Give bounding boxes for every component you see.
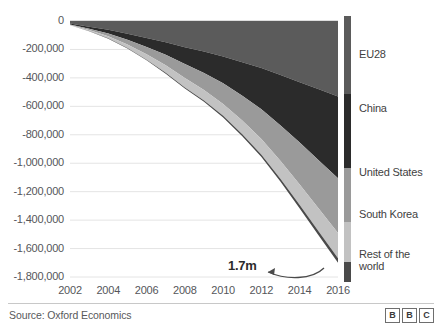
legend-color-swatch — [344, 222, 351, 262]
legend-color-swatch — [344, 94, 351, 168]
annotation-arrow — [268, 268, 324, 278]
legend-item-label: Rest of the world — [359, 248, 410, 272]
bbc-logo: B B C — [385, 308, 434, 323]
annotation-1-7m: 1.7m — [228, 258, 256, 273]
legend-item-label: China — [359, 102, 387, 114]
x-axis-tick-label: 2010 — [203, 284, 243, 296]
y-axis-tick-label: -600,000 — [0, 99, 64, 111]
y-axis-tick-label: 0 — [0, 14, 64, 26]
x-axis-tick-label: 2012 — [241, 284, 281, 296]
y-axis-tick-label: -1,200,000 — [0, 185, 64, 197]
legend-color-swatch — [344, 168, 351, 222]
legend: EU28ChinaUnited StatesSouth KoreaRest of… — [344, 16, 442, 282]
y-axis-tick-label: -1,600,000 — [0, 242, 64, 254]
source-note: Source: Oxford Economics — [9, 309, 131, 321]
bbc-logo-letter: C — [419, 308, 434, 323]
legend-color-swatch — [344, 262, 351, 282]
legend-item-label: United States — [359, 166, 422, 178]
x-axis-tick-label: 2008 — [165, 284, 205, 296]
legend-color-swatch — [344, 16, 351, 94]
legend-color-bar — [344, 16, 351, 282]
x-axis-tick-label: 2016 — [318, 284, 358, 296]
area-series-group — [70, 21, 338, 263]
x-axis-tick-label: 2014 — [280, 284, 320, 296]
y-axis-tick-label: -400,000 — [0, 71, 64, 83]
legend-item-label: EU28 — [359, 48, 386, 60]
y-axis-tick-label: -200,000 — [0, 42, 64, 54]
x-axis-tick-label: 2002 — [50, 284, 90, 296]
y-axis-tick-label: -800,000 — [0, 128, 64, 140]
x-axis-tick-label: 2006 — [127, 284, 167, 296]
chart-container: 0-200,000-400,000-600,000-800,000-1,000,… — [0, 0, 442, 328]
y-axis-tick-label: -1,000,000 — [0, 156, 64, 168]
x-axis-tick-label: 2004 — [88, 284, 128, 296]
footer-divider — [8, 303, 434, 304]
y-axis-tick-label: -1,400,000 — [0, 213, 64, 225]
legend-item-label: South Korea — [359, 208, 418, 220]
y-axis-tick-label: -1,800,000 — [0, 270, 64, 282]
bbc-logo-letter: B — [385, 308, 400, 323]
bbc-logo-letter: B — [402, 308, 417, 323]
